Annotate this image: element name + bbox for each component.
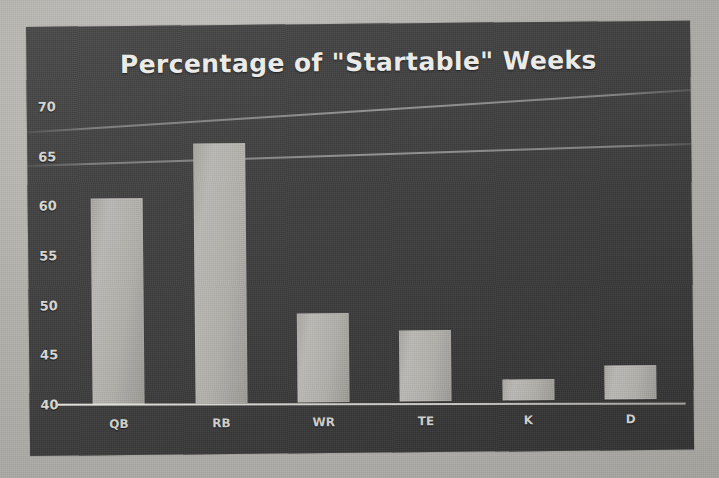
chart-panel: Percentage of "Startable" Weeks 70656055… [26,21,694,456]
y-axis-tick-label: 65 [38,149,56,164]
y-axis-tick-label: 55 [39,248,57,263]
plot-area: 70656055504540 QBRBWRTEKD [65,81,682,405]
x-axis-tick-label: TE [418,414,435,428]
x-axis-tick-label: RB [212,416,231,430]
x-axis-tick-label: QB [109,417,128,431]
bar-rb [193,143,247,404]
y-axis-tick-label: 45 [40,348,58,363]
bar-wr [297,312,350,402]
chart-title: Percentage of "Startable" Weeks [26,45,690,80]
y-axis-tick-label: 40 [40,397,58,412]
bar-series [65,81,682,405]
x-axis-tick-label: WR [312,415,335,429]
bar-k [502,379,554,400]
y-axis-tick-label: 60 [39,198,57,213]
x-axis-tick-label: K [524,413,533,427]
y-axis-tick-label: 70 [38,99,56,114]
x-axis-tick-label: D [626,412,636,426]
bar-d [604,365,656,399]
y-axis-tick-label: 50 [40,298,58,313]
bar-qb [91,198,145,404]
x-axis-baseline [58,403,686,406]
photograph-of-chart-slide: Percentage of "Startable" Weeks 70656055… [0,0,719,478]
bar-te [399,330,452,401]
